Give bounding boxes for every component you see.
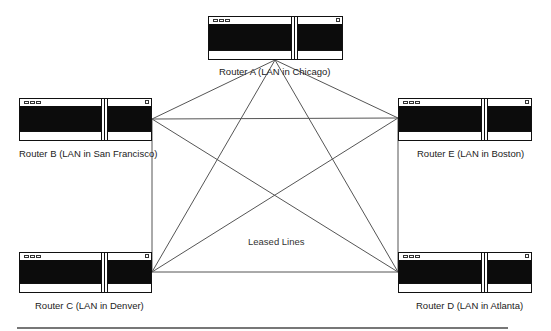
router-left-panel xyxy=(399,253,481,292)
router-right-panel xyxy=(488,99,531,140)
router-footer xyxy=(298,50,342,59)
leased-lines-label: Leased Lines xyxy=(248,236,305,247)
router-d-label: Router D (LAN in Atlanta) xyxy=(416,300,523,311)
router-footer xyxy=(209,50,291,59)
window-buttons-icon xyxy=(24,101,41,104)
router-footer xyxy=(488,131,531,140)
network-diagram: Router A (LAN in Chicago)Router B (LAN i… xyxy=(0,0,551,331)
router-left-panel xyxy=(20,99,101,140)
router-screen xyxy=(488,260,531,284)
router-screen xyxy=(399,106,481,132)
router-c-label: Router C (LAN in Denver) xyxy=(35,300,144,311)
router-a-label: Router A (LAN in Chicago) xyxy=(219,66,330,77)
router-divider xyxy=(291,17,298,59)
router-c xyxy=(19,252,152,293)
bottom-rule xyxy=(17,327,508,329)
router-divider xyxy=(481,99,488,140)
router-footer xyxy=(108,131,151,140)
router-screen xyxy=(298,24,342,51)
router-d xyxy=(398,252,532,293)
router-b xyxy=(19,98,152,141)
router-screen xyxy=(108,260,151,284)
window-square-icon xyxy=(145,100,149,104)
router-screen xyxy=(20,106,101,132)
router-footer xyxy=(399,283,481,292)
window-square-icon xyxy=(525,254,529,258)
window-square-icon xyxy=(525,100,529,104)
window-buttons-icon xyxy=(213,19,230,22)
window-buttons-icon xyxy=(24,255,41,258)
router-right-panel xyxy=(488,253,531,292)
router-screen xyxy=(108,106,151,132)
window-buttons-icon xyxy=(403,255,420,258)
router-right-panel xyxy=(108,99,151,140)
router-screen xyxy=(20,260,101,284)
router-b-label: Router B (LAN in San Francisco) xyxy=(19,148,157,159)
router-footer xyxy=(399,131,481,140)
window-square-icon xyxy=(145,254,149,258)
router-footer xyxy=(108,283,151,292)
leased-line-b-e xyxy=(152,118,398,119)
router-left-panel xyxy=(399,99,481,140)
router-divider xyxy=(101,99,108,140)
window-buttons-icon xyxy=(403,101,420,104)
router-divider xyxy=(101,253,108,292)
router-footer xyxy=(20,131,101,140)
router-screen xyxy=(399,260,481,284)
router-e xyxy=(398,98,532,141)
router-right-panel xyxy=(108,253,151,292)
router-e-label: Router E (LAN in Boston) xyxy=(417,148,524,159)
router-left-panel xyxy=(20,253,101,292)
window-square-icon xyxy=(336,18,340,22)
router-right-panel xyxy=(298,17,342,59)
router-screen xyxy=(209,24,291,51)
router-divider xyxy=(481,253,488,292)
router-footer xyxy=(20,283,101,292)
router-a xyxy=(208,16,343,60)
router-screen xyxy=(488,106,531,132)
router-left-panel xyxy=(209,17,291,59)
router-footer xyxy=(488,283,531,292)
